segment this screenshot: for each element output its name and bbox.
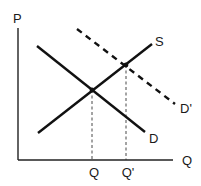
equilibrium-point-original (90, 88, 95, 93)
tick-labels: Q Q' (89, 165, 134, 180)
supply-label: S (155, 34, 164, 49)
equilibrium-point-new (124, 63, 129, 68)
demand-label: D (149, 131, 158, 146)
y-axis-label: P (13, 11, 22, 26)
axes: P Q (13, 11, 192, 168)
tick-label-q-prime: Q' (122, 165, 135, 180)
tick-label-q: Q (89, 165, 99, 180)
supply-curve (38, 44, 152, 133)
shifted-demand-label: D' (180, 101, 192, 116)
x-axis-label: Q (182, 153, 192, 168)
curves: S D D' (37, 29, 192, 146)
supply-demand-diagram: P Q S D D' Q Q' (0, 0, 201, 186)
